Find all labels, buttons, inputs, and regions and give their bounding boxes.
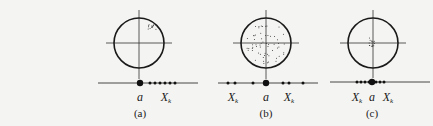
scatter-dot bbox=[264, 55, 265, 56]
scatter-dot bbox=[252, 47, 253, 48]
scatter-dot bbox=[252, 50, 253, 51]
caption-b: (b) bbox=[260, 107, 273, 119]
scatter-dot bbox=[248, 48, 249, 49]
measured-value-marker bbox=[154, 82, 157, 85]
panel-a bbox=[98, 10, 198, 86]
scatter-dot bbox=[267, 35, 268, 36]
scatter-dot bbox=[153, 25, 154, 26]
scatter-dot bbox=[267, 46, 268, 47]
true-value-marker bbox=[137, 80, 143, 86]
scatter-dot bbox=[263, 57, 264, 58]
scatter-dot bbox=[151, 25, 152, 26]
scatter-dot bbox=[279, 56, 280, 57]
true-value-label-c: a bbox=[369, 91, 375, 103]
measured-value-marker bbox=[302, 82, 305, 85]
scatter-dot bbox=[276, 58, 277, 59]
scatter-dot bbox=[247, 48, 248, 49]
scatter-dot bbox=[268, 61, 269, 62]
measured-value-marker bbox=[360, 81, 363, 84]
scatter-dot bbox=[258, 27, 259, 28]
measured-value-label-b-right: Xk bbox=[284, 91, 294, 107]
scatter-dot bbox=[369, 42, 370, 43]
measured-value-marker bbox=[149, 82, 152, 85]
scatter-dot bbox=[150, 28, 151, 29]
scatter-dot bbox=[265, 53, 266, 54]
scatter-dot bbox=[261, 26, 262, 27]
scatter-dot bbox=[247, 38, 248, 39]
scatter-dot bbox=[252, 44, 253, 45]
measured-value-marker bbox=[227, 82, 230, 85]
scatter-dot bbox=[156, 25, 157, 26]
scatter-dot bbox=[272, 50, 273, 51]
scatter-dot bbox=[372, 44, 373, 45]
scatter-points bbox=[148, 24, 157, 30]
measured-value-marker bbox=[379, 81, 382, 84]
scatter-dot bbox=[262, 41, 263, 42]
scatter-dot bbox=[255, 60, 256, 61]
scatter-dot bbox=[255, 26, 256, 27]
scatter-dot bbox=[258, 52, 259, 53]
scatter-dot bbox=[151, 27, 152, 28]
scatter-dot bbox=[265, 35, 266, 36]
scatter-dot bbox=[259, 44, 260, 45]
scatter-dot bbox=[254, 39, 255, 40]
scatter-dot bbox=[371, 43, 372, 44]
scatter-dot bbox=[284, 43, 285, 44]
scatter-points bbox=[369, 38, 375, 47]
scatter-dot bbox=[248, 50, 249, 51]
scatter-dot bbox=[149, 24, 150, 25]
measured-value-label-c-left: Xk bbox=[352, 91, 362, 107]
scatter-dot bbox=[372, 46, 373, 47]
scatter-dot bbox=[369, 45, 370, 46]
scatter-dot bbox=[370, 40, 371, 41]
scatter-dot bbox=[261, 38, 262, 39]
panel-c bbox=[330, 10, 430, 85]
measured-value-marker bbox=[364, 81, 367, 84]
scatter-dot bbox=[265, 26, 266, 27]
true-value-label-b: a bbox=[263, 91, 269, 103]
scatter-dot bbox=[263, 63, 264, 64]
measured-value-marker bbox=[164, 82, 167, 85]
measured-value-label-c-right: Xk bbox=[383, 91, 393, 107]
scatter-dot bbox=[258, 26, 259, 27]
measured-value-marker bbox=[368, 81, 371, 84]
scatter-dot bbox=[277, 39, 278, 40]
scatter-dot bbox=[267, 54, 268, 55]
panel-b bbox=[218, 10, 318, 86]
measured-value-marker bbox=[174, 82, 177, 85]
measured-value-marker bbox=[282, 82, 285, 85]
scatter-dot bbox=[148, 25, 149, 26]
scatter-dot bbox=[372, 41, 373, 42]
scatter-dot bbox=[262, 26, 263, 27]
scatter-dot bbox=[373, 45, 374, 46]
measured-value-marker bbox=[375, 81, 378, 84]
measured-value-label-b-left: Xk bbox=[228, 91, 238, 107]
scatter-dot bbox=[268, 44, 269, 45]
scatter-dot bbox=[278, 43, 279, 44]
scatter-dot bbox=[283, 52, 284, 53]
measured-value-marker bbox=[252, 82, 255, 85]
measured-value-marker bbox=[159, 82, 162, 85]
scatter-dot bbox=[277, 47, 278, 48]
scatter-dot bbox=[260, 46, 261, 47]
scatter-dot bbox=[279, 26, 280, 27]
true-value-label-a: a bbox=[137, 91, 143, 103]
measured-value-marker bbox=[169, 82, 172, 85]
true-value-marker bbox=[263, 80, 269, 86]
scatter-dot bbox=[155, 29, 156, 30]
scatter-dot bbox=[274, 44, 275, 45]
scatter-dot bbox=[369, 38, 370, 39]
scatter-dot bbox=[374, 41, 375, 42]
caption-c: (c) bbox=[366, 107, 378, 119]
scatter-dot bbox=[256, 46, 257, 47]
scatter-dot bbox=[152, 26, 153, 27]
scatter-dot bbox=[266, 26, 267, 27]
scatter-dot bbox=[372, 41, 373, 42]
scatter-dot bbox=[263, 61, 264, 62]
scatter-dot bbox=[253, 35, 254, 36]
scatter-dot bbox=[267, 62, 268, 63]
scatter-dot bbox=[270, 36, 271, 37]
scatter-dot bbox=[283, 34, 284, 35]
measured-value-marker bbox=[288, 82, 291, 85]
measured-value-marker bbox=[356, 81, 359, 84]
